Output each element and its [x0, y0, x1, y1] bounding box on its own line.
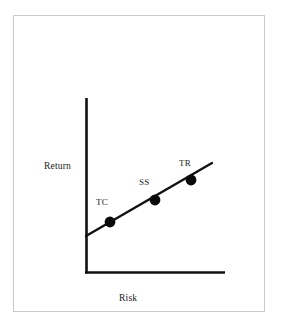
data-point-label-tc: TC — [96, 197, 108, 207]
x-axis-label: Risk — [119, 293, 137, 303]
data-point-label-tr: TR — [179, 158, 191, 168]
risk-return-plot — [0, 0, 281, 328]
figure-canvas: Return Risk TC SS TR — [0, 0, 281, 328]
data-point-ss — [150, 195, 161, 206]
data-point-tc — [105, 217, 116, 228]
data-point-label-ss: SS — [139, 177, 149, 187]
data-point-tr — [186, 175, 197, 186]
y-axis-label: Return — [44, 161, 71, 171]
